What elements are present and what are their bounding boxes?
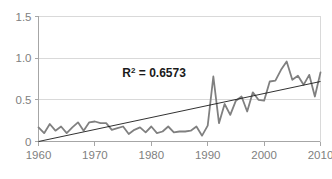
y-axis-label-1-5: 1.5 <box>16 11 32 23</box>
trendline <box>39 82 321 142</box>
chart-plot: 00.51.01.5 196019701980199020002010 R2 =… <box>0 0 332 179</box>
y-axis-label-0: 0 <box>25 136 31 148</box>
y-axis-label-0-5: 0.5 <box>16 94 32 106</box>
x-axis-label-1980: 1980 <box>139 149 165 161</box>
r-squared-value: = 0.6573 <box>135 66 186 80</box>
x-axis-label-1990: 1990 <box>195 149 221 161</box>
x-axis-label-2000: 2000 <box>251 149 277 161</box>
r-squared-label: R2 = 0.6573 <box>122 66 186 80</box>
y-axis-label-1-0: 1.0 <box>16 52 32 64</box>
x-axis-label-2010: 2010 <box>308 149 332 161</box>
r-squared-base: R <box>122 66 131 80</box>
r-squared-annotation: R2 = 0.6573 <box>122 66 186 80</box>
trendline-segment <box>39 82 321 142</box>
x-axis-label-1970: 1970 <box>82 149 108 161</box>
x-axis-label-1960: 1960 <box>26 149 52 161</box>
x-axis-tick-labels: 196019701980199020002010 <box>26 149 332 161</box>
y-axis-tick-labels: 00.51.01.5 <box>16 11 32 148</box>
x-axis-ticks <box>39 142 321 147</box>
chart-container: 00.51.01.5 196019701980199020002010 R2 =… <box>0 0 332 179</box>
